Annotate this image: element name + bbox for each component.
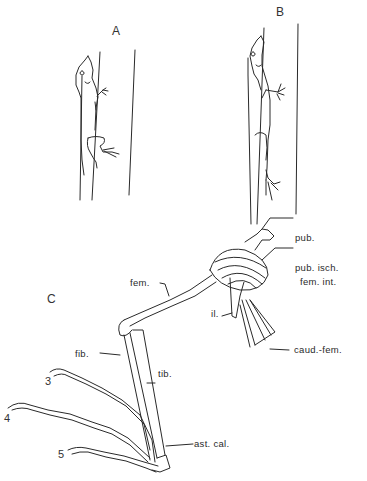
panel-c-drawing xyxy=(8,229,275,472)
panel-a-drawing xyxy=(76,50,135,200)
label-tib: tib. xyxy=(158,368,172,379)
label-pub: pub. xyxy=(295,232,315,243)
digit-label-3: 3 xyxy=(45,375,51,387)
label-fib: fib. xyxy=(75,348,89,359)
panel-b-drawing xyxy=(248,24,298,224)
label-caud-fem: caud.-fem. xyxy=(294,344,342,355)
leader-lines xyxy=(100,218,293,446)
digit-label-4: 4 xyxy=(4,412,10,424)
label-fem-int: fem. int. xyxy=(300,276,337,287)
label-pub-isch: pub. isch. xyxy=(295,262,339,273)
panel-label-b: B xyxy=(276,5,284,19)
label-ast-cal: ast. cal. xyxy=(194,438,229,449)
panel-label-c: C xyxy=(47,292,56,306)
label-il: il. xyxy=(211,308,219,319)
digit-label-5: 5 xyxy=(58,448,64,460)
label-fem: fem. xyxy=(130,277,150,288)
panel-label-a: A xyxy=(112,24,120,38)
